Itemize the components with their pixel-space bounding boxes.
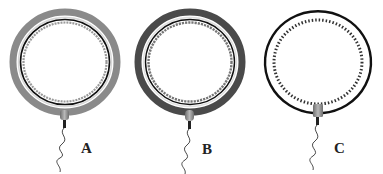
connector-a-icon	[60, 110, 69, 120]
wire-c-icon	[310, 125, 318, 170]
panel-label-b: B	[202, 142, 212, 157]
panel-label-a: A	[81, 141, 92, 156]
wire-b-icon	[182, 129, 190, 174]
panel-a-ring	[13, 12, 117, 172]
panel-label-c: C	[334, 141, 345, 156]
connector-c-icon	[313, 104, 323, 117]
figure-canvas	[0, 0, 383, 174]
panel-b-ring	[138, 12, 242, 174]
wire-a-icon	[57, 128, 65, 172]
panel-c-ring	[265, 11, 371, 170]
connector-b-icon	[185, 110, 194, 121]
